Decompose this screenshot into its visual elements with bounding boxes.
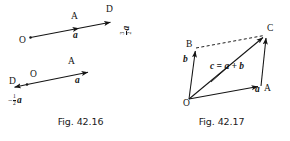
fraction-three-halves: 3 2 bbox=[120, 31, 133, 35]
figure-42-16: A ----> D ---------- --> O A a D 3 2 a A bbox=[0, 0, 145, 141]
fraction-denominator: 2 bbox=[126, 31, 133, 35]
vector-label-b: b bbox=[183, 55, 188, 65]
point-label-A-top: A bbox=[71, 12, 78, 22]
equation-label-c-equals-a-plus-b: c = a + b bbox=[210, 62, 244, 72]
point-label-A: A bbox=[264, 84, 271, 94]
point-label-O-top: O bbox=[19, 36, 26, 46]
vector-arrow-a-top bbox=[31, 28, 80, 37]
point-label-O: O bbox=[183, 99, 190, 109]
vector-label-a-bottom: a bbox=[75, 76, 80, 86]
figure-caption-42-17: Fig. 42.17 bbox=[149, 116, 290, 127]
vector-arrow-a bbox=[189, 87, 258, 99]
point-label-D-bottom: D bbox=[9, 77, 16, 87]
vector-label-a-top: a bbox=[73, 31, 78, 41]
figure-caption-42-16: Fig. 42.16 bbox=[8, 116, 153, 127]
vector-label-three-halves-a: 3 2 a bbox=[116, 26, 133, 35]
vector-arrow-b bbox=[189, 51, 195, 99]
point-label-O-bottom: O bbox=[30, 70, 37, 80]
construction-line-A-to-C bbox=[261, 38, 266, 86]
construction-line-B-to-C bbox=[196, 36, 264, 49]
diagram-fig-42-16-top bbox=[29, 22, 110, 39]
vector-arrow-three-halves-a bbox=[79, 22, 111, 28]
vector-symbol-a: a bbox=[121, 26, 131, 32]
vector-label-minus-half-a: − 1 2 a bbox=[8, 90, 22, 107]
vector-arrow-minus-half-a bbox=[15, 85, 28, 88]
vector-symbol-a: a bbox=[16, 95, 22, 105]
figure-42-17: O A B C b a c = a + b Fig. 42.17 bbox=[145, 0, 290, 141]
vector-label-a: a bbox=[255, 85, 260, 95]
point-label-C: C bbox=[267, 24, 273, 34]
point-marker-O-bottom bbox=[26, 83, 29, 86]
point-label-A-bottom: A bbox=[68, 57, 75, 67]
point-label-B: B bbox=[186, 40, 192, 50]
point-label-D-top: D bbox=[106, 5, 113, 15]
